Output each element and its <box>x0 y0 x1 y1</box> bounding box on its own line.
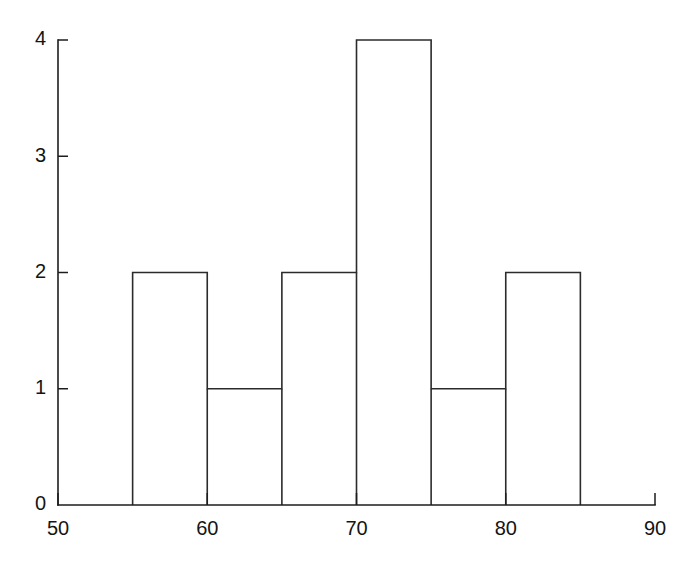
histogram-bars <box>133 40 581 505</box>
histogram-plot: 5060708090 01234 <box>0 0 684 567</box>
y-axis-tick-labels: 01234 <box>35 27 46 514</box>
x-tick-label-70: 70 <box>345 517 367 539</box>
x-tick-label-50: 50 <box>47 517 69 539</box>
y-tick-label-3: 3 <box>35 144 46 166</box>
y-tick-label-2: 2 <box>35 260 46 282</box>
histogram-figure: 5060708090 01234 <box>0 0 684 567</box>
x-tick-label-60: 60 <box>196 517 218 539</box>
y-tick-label-1: 1 <box>35 376 46 398</box>
y-axis-ticks <box>58 40 68 389</box>
x-tick-label-90: 90 <box>644 517 666 539</box>
x-axis-tick-labels: 5060708090 <box>47 517 666 539</box>
x-tick-label-80: 80 <box>495 517 517 539</box>
y-tick-label-4: 4 <box>35 27 46 49</box>
y-tick-label-0: 0 <box>35 492 46 514</box>
